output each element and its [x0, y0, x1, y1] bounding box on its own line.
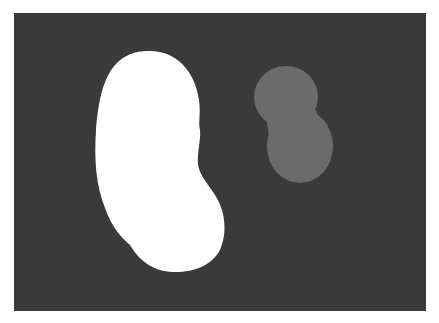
image-frame	[14, 13, 426, 311]
blob-image	[14, 13, 426, 311]
dark-background	[14, 13, 426, 311]
